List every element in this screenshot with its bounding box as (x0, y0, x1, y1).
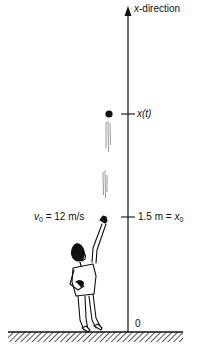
initial-position-label: 1.5 m = x0 (138, 212, 183, 223)
person-figure (70, 216, 107, 332)
ball-icon (105, 110, 112, 117)
initial-position-sub: 0 (179, 216, 183, 223)
ball-position-label: x(t) (137, 109, 151, 119)
x-axis (125, 6, 132, 332)
ball-position-arg: (t) (142, 108, 151, 119)
initial-position-value: 1.5 m = (138, 211, 174, 222)
axis-label-rest: -direction (139, 3, 180, 14)
diagram-canvas (0, 0, 200, 360)
arrowhead-icon (125, 6, 132, 16)
initial-velocity-value: = 12 m/s (43, 211, 84, 222)
origin-label: 0 (135, 319, 141, 329)
axis-label: x-direction (134, 4, 180, 14)
initial-velocity-label: v0 = 12 m/s (34, 212, 84, 223)
ground (8, 332, 183, 342)
motion-streaks (103, 121, 111, 198)
